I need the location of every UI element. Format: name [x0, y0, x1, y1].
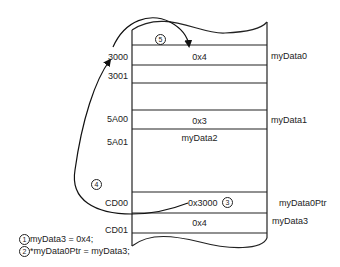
variable-myData0Ptr: myData0Ptr	[279, 198, 327, 208]
cell-value-5A01: myData2	[132, 133, 267, 143]
cell-value-CD00: 0x3000	[188, 198, 218, 208]
step-marker-4: 4	[91, 179, 102, 190]
cell-value-CD01: 0x4	[132, 218, 267, 228]
address-label-5A01: 5A01	[88, 137, 128, 147]
code-line-2: 2*myData0Ptr = myData3;	[19, 246, 130, 257]
cell-value-3000: 0x4	[132, 52, 267, 62]
step-marker-3: 3	[222, 197, 233, 208]
step-marker-5: 5	[155, 34, 166, 45]
cell-value-5A00: 0x3	[132, 116, 267, 126]
address-label-CD00: CD00	[88, 198, 128, 208]
address-label-3001: 3001	[88, 71, 128, 81]
address-label-3000: 3000	[88, 52, 128, 62]
variable-myData1: myData1	[271, 115, 307, 125]
code-line-1: 1myData3 = 0x4;	[19, 234, 93, 245]
address-label-5A00: 5A00	[88, 114, 128, 124]
address-label-CD01: CD01	[88, 225, 128, 235]
variable-myData3: myData3	[272, 216, 308, 226]
variable-myData0: myData0	[271, 51, 307, 61]
